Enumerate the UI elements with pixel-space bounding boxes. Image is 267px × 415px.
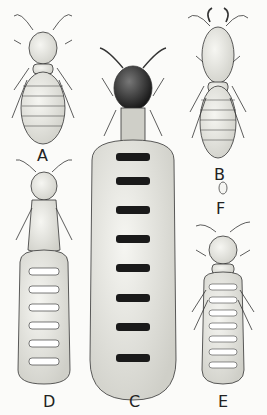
label-e: E — [218, 394, 228, 410]
termite-illustration — [0, 0, 267, 415]
label-f: F — [216, 201, 225, 217]
label-b: B — [214, 167, 225, 183]
label-a: A — [37, 148, 48, 164]
termite-e — [192, 222, 254, 384]
label-d: D — [43, 394, 55, 410]
label-c: C — [129, 394, 140, 410]
termite-b — [188, 8, 248, 158]
termite-a — [12, 15, 74, 144]
termite-c-queen — [90, 48, 176, 400]
termite-d — [16, 160, 72, 384]
